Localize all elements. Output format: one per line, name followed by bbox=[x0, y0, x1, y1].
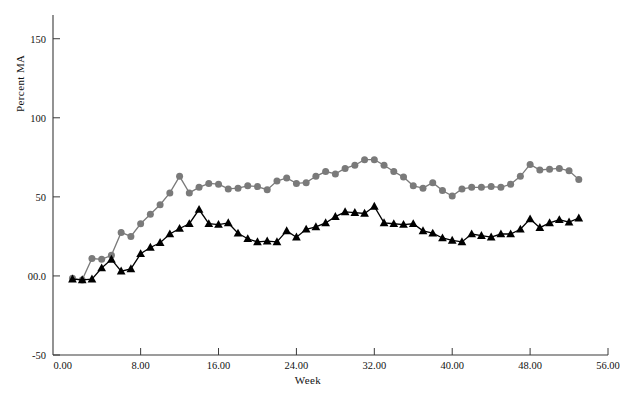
data-point bbox=[321, 218, 330, 226]
x-tick-label: 56.00 bbox=[596, 360, 620, 371]
data-point bbox=[361, 156, 368, 163]
x-tick-label: 48.00 bbox=[518, 360, 542, 371]
data-point bbox=[574, 214, 583, 222]
data-point bbox=[293, 180, 300, 187]
data-point bbox=[146, 243, 155, 251]
data-point bbox=[517, 173, 524, 180]
data-point bbox=[380, 218, 389, 226]
data-point bbox=[566, 167, 573, 174]
data-point bbox=[342, 165, 349, 172]
x-tick-label: 24.00 bbox=[285, 360, 309, 371]
data-point bbox=[575, 176, 582, 183]
data-point bbox=[429, 179, 436, 186]
data-point bbox=[118, 229, 125, 236]
data-point bbox=[195, 205, 204, 213]
data-point bbox=[292, 233, 301, 241]
data-point bbox=[546, 166, 553, 173]
data-point bbox=[419, 226, 428, 234]
data-point bbox=[341, 207, 350, 215]
data-point bbox=[264, 186, 271, 193]
axis-frame bbox=[53, 15, 608, 355]
data-point bbox=[137, 220, 144, 227]
data-point bbox=[527, 161, 534, 168]
data-point bbox=[166, 189, 173, 196]
x-tick-label: 8.00 bbox=[131, 360, 149, 371]
x-tick-label: 40.00 bbox=[440, 360, 464, 371]
data-point bbox=[127, 264, 136, 272]
data-point bbox=[157, 201, 164, 208]
data-point bbox=[332, 170, 339, 177]
data-point bbox=[351, 162, 358, 169]
y-tick-label: -50 bbox=[8, 350, 46, 361]
data-point bbox=[254, 183, 261, 190]
data-point bbox=[283, 174, 290, 181]
data-point bbox=[468, 184, 475, 191]
y-tick-label: 100 bbox=[8, 112, 46, 123]
data-point bbox=[497, 184, 504, 191]
data-point bbox=[165, 229, 174, 237]
y-tick-label: 00.0 bbox=[8, 270, 46, 281]
series-black-triangle-series bbox=[68, 202, 583, 283]
data-point bbox=[243, 234, 252, 242]
data-point bbox=[478, 184, 485, 191]
data-point bbox=[409, 219, 418, 227]
data-point bbox=[370, 202, 379, 210]
data-point bbox=[244, 182, 251, 189]
data-point bbox=[438, 233, 447, 241]
data-point bbox=[263, 237, 272, 245]
data-point bbox=[458, 185, 465, 192]
data-point bbox=[526, 214, 535, 222]
data-point bbox=[175, 224, 184, 232]
data-point bbox=[536, 166, 543, 173]
y-axis-title: Percent MA bbox=[14, 55, 26, 112]
data-series-layer bbox=[68, 156, 583, 283]
data-point bbox=[410, 182, 417, 189]
y-tick-marks bbox=[53, 39, 60, 355]
data-point bbox=[312, 173, 319, 180]
data-point bbox=[331, 212, 340, 220]
x-tick-marks bbox=[141, 348, 608, 355]
x-tick-label: 32.00 bbox=[363, 360, 387, 371]
data-point bbox=[282, 226, 291, 234]
data-point bbox=[224, 218, 233, 226]
data-point bbox=[88, 255, 95, 262]
data-point bbox=[98, 256, 105, 263]
data-point bbox=[235, 185, 242, 192]
data-point bbox=[215, 181, 222, 188]
data-point bbox=[449, 193, 456, 200]
data-point bbox=[147, 211, 154, 218]
data-point bbox=[196, 184, 203, 191]
data-point bbox=[186, 189, 193, 196]
data-point bbox=[555, 215, 564, 223]
data-point bbox=[176, 173, 183, 180]
data-point bbox=[205, 180, 212, 187]
data-point bbox=[400, 174, 407, 181]
data-point bbox=[381, 162, 388, 169]
data-point bbox=[225, 185, 232, 192]
y-tick-label: 50 bbox=[8, 191, 46, 202]
data-point bbox=[273, 178, 280, 185]
x-tick-label: 16.00 bbox=[207, 360, 231, 371]
data-point bbox=[303, 179, 310, 186]
data-point bbox=[507, 181, 514, 188]
data-point bbox=[420, 185, 427, 192]
data-point bbox=[371, 156, 378, 163]
data-point bbox=[439, 187, 446, 194]
x-axis-title: Week bbox=[0, 374, 616, 386]
data-point bbox=[556, 165, 563, 172]
x-tick-label: 0.00 bbox=[54, 360, 72, 371]
data-point bbox=[136, 249, 145, 257]
data-point bbox=[467, 229, 476, 237]
data-point bbox=[322, 168, 329, 175]
data-point bbox=[127, 233, 134, 240]
data-point bbox=[390, 168, 397, 175]
data-point bbox=[488, 183, 495, 190]
y-tick-label: 150 bbox=[8, 33, 46, 44]
